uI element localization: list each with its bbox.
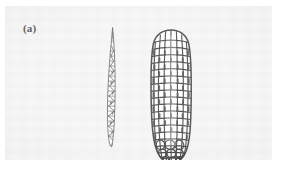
- panel-label: (a): [23, 23, 36, 34]
- page-bottom-margin: [0, 160, 288, 181]
- maize-ear-illustration: [141, 26, 201, 160]
- scanned-figure-panel: (a): [5, 6, 272, 160]
- teosinte-ear-illustration: [93, 26, 133, 148]
- specimen-group: [5, 6, 272, 160]
- figure-root: (a): [0, 0, 288, 181]
